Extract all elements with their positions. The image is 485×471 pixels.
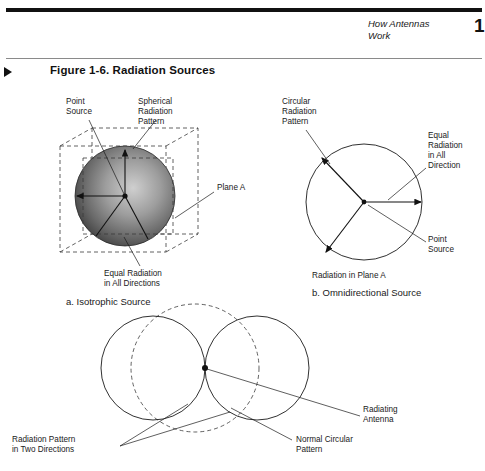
svg-text:Radiation Pattern: Radiation Pattern [12, 435, 76, 444]
svg-text:Pattern: Pattern [282, 117, 309, 126]
svg-text:Direction: Direction [428, 161, 461, 170]
svg-text:Equal: Equal [428, 131, 449, 140]
figure-title: Figure 1-6. Radiation Sources [50, 64, 215, 76]
label-two-directions: Radiation Pattern in Two Directions [12, 435, 76, 454]
figure-rule-thin [6, 58, 482, 59]
lobe-left [101, 316, 205, 420]
svg-text:Radiation: Radiation [138, 107, 173, 116]
right-triangle-marker-icon [4, 67, 12, 77]
lobe-right [205, 316, 309, 420]
caption-omnidirectional-source: b. Omnidirectional Source [312, 287, 421, 298]
label-plane-a: Plane A [217, 183, 246, 192]
svg-text:Spherical: Spherical [138, 97, 172, 106]
leader-radiating-antenna [207, 369, 360, 416]
svg-text:Antenna: Antenna [363, 415, 394, 424]
svg-text:Point: Point [66, 97, 85, 106]
label-plane-note: Radiation in Plane A [312, 271, 386, 280]
leader-point-source [368, 205, 426, 242]
svg-text:Circular: Circular [282, 97, 310, 106]
radiating-antenna-dot [202, 365, 208, 371]
svg-text:in All Directions: in All Directions [104, 279, 160, 288]
radiation-rays [322, 158, 421, 252]
svg-text:in All: in All [428, 151, 445, 160]
label-circular-pattern: Circular Radiation Pattern [282, 97, 317, 126]
leader-two-directions-a [120, 404, 188, 446]
svg-text:Plane A: Plane A [217, 183, 246, 192]
label-equal-radiation: Equal Radiation in All Directions [104, 269, 162, 288]
point-source-dot [122, 193, 127, 198]
svg-text:Source: Source [428, 245, 454, 254]
label-radiating-antenna: Radiating Antenna [363, 405, 398, 424]
page-number: 1 [474, 15, 485, 37]
label-normal-pattern: Normal Circular Pattern [296, 435, 353, 454]
svg-text:Radiation: Radiation [282, 107, 317, 116]
svg-text:in Two Directions: in Two Directions [12, 445, 74, 454]
label-point-source: Point Source [428, 235, 454, 254]
point-source-dot [362, 200, 367, 205]
svg-text:Pattern: Pattern [296, 445, 323, 454]
label-equal-radiation: Equal Radiation in All Direction [428, 131, 463, 170]
label-spherical-pattern: Spherical Radiation Pattern [138, 97, 173, 126]
leader-plane-a [175, 192, 214, 218]
diagram-omnidirectional-source: Circular Radiation Pattern Equal Radiati… [276, 96, 482, 304]
diagram-directional-pattern: Radiating Antenna Normal Circular Patter… [60, 300, 420, 471]
leader-equal-radiation [388, 168, 426, 200]
svg-text:Equal Radiation: Equal Radiation [104, 269, 162, 278]
svg-text:Normal Circular: Normal Circular [296, 435, 353, 444]
svg-text:Pattern: Pattern [138, 117, 165, 126]
diagram-isotropic-source: Point Source Spherical Radiation Pattern… [36, 96, 272, 296]
label-point-source: Point Source [66, 97, 92, 116]
svg-text:Radiation: Radiation [428, 141, 463, 150]
header-rule-thick [6, 8, 482, 12]
running-head: How Antennas Work [368, 18, 429, 41]
leader-circular-pattern [306, 130, 330, 164]
svg-text:Radiation in Plane A: Radiation in Plane A [312, 271, 386, 280]
svg-text:Point: Point [428, 235, 447, 244]
svg-text:Source: Source [66, 107, 92, 116]
svg-text:Radiating: Radiating [363, 405, 398, 414]
